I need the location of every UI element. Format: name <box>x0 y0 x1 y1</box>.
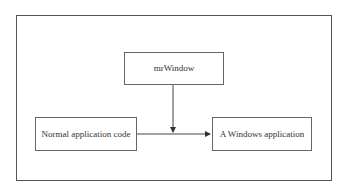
diagram-canvas: mrWindow Normal application code A Windo… <box>0 0 349 190</box>
node-windows-application: A Windows application <box>213 118 312 151</box>
outer-frame <box>17 16 332 181</box>
node-label: Normal application code <box>42 129 131 139</box>
node-mrwindow: mrWindow <box>125 53 224 85</box>
node-normal-application-code: Normal application code <box>36 118 137 151</box>
node-label: A Windows application <box>220 129 305 139</box>
node-label: mrWindow <box>154 63 195 73</box>
